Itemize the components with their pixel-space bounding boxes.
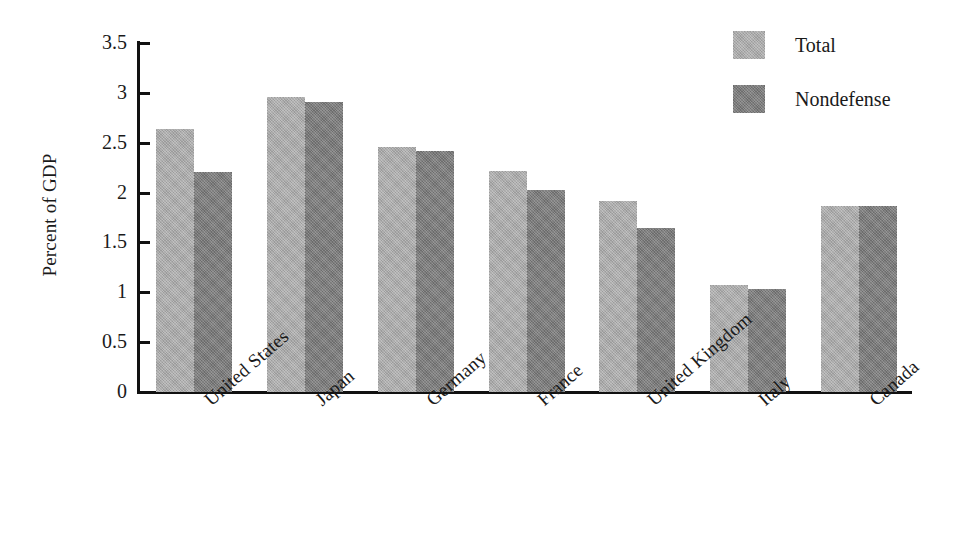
- x-axis-category-labels: United StatesJapanGermanyFranceUnited Ki…: [137, 394, 912, 544]
- bar-nondefense: [194, 172, 232, 392]
- y-axis-tick-label: 3: [55, 82, 127, 102]
- bar-chart-figure: Percent of GDP 3.532.521.510.50 United S…: [0, 0, 961, 550]
- y-axis-tick-label: 2.5: [55, 132, 127, 152]
- bar-total: [599, 201, 637, 392]
- bar-total: [156, 129, 194, 392]
- legend-swatch-icon: [733, 31, 765, 59]
- y-axis-tick-label: 3.5: [55, 32, 127, 52]
- x-axis-label-canada: Canada: [865, 394, 879, 411]
- y-axis-tick-label: 0.5: [55, 331, 127, 351]
- y-axis-tick-label: 1.5: [55, 231, 127, 251]
- bar-group: [156, 43, 232, 392]
- bar-group: [378, 43, 454, 392]
- bar-total: [489, 171, 527, 392]
- y-axis-tick-label-wrap: 2.5: [55, 132, 127, 152]
- x-axis-label-germany: Germany: [422, 394, 436, 411]
- y-axis-tick-label: 0: [55, 381, 127, 401]
- bar-nondefense: [637, 228, 675, 392]
- y-axis-tick-label-wrap: 0.5: [55, 331, 127, 351]
- bar-group: [599, 43, 675, 392]
- y-axis-tick-label-wrap: 2: [55, 182, 127, 202]
- x-axis-label-united-states: United States: [200, 394, 214, 411]
- chart-legend: TotalNondefense: [733, 31, 943, 113]
- x-axis-label-united-kingdom: United Kingdom: [643, 394, 657, 411]
- x-axis-label-italy: Italy: [754, 394, 768, 411]
- y-axis-tick-label: 2: [55, 182, 127, 202]
- x-axis-label-france: France: [533, 394, 547, 411]
- y-axis-tick-label: 1: [55, 281, 127, 301]
- bar-nondefense: [305, 102, 343, 392]
- bar-group: [489, 43, 565, 392]
- y-axis-tick-label-wrap: 3: [55, 82, 127, 102]
- y-axis-tick-label-wrap: 0: [55, 381, 127, 401]
- y-axis-tick-label-wrap: 3.5: [55, 32, 127, 52]
- x-axis-label-japan: Japan: [311, 394, 325, 411]
- bar-total: [378, 147, 416, 392]
- legend-item: Nondefense: [733, 85, 891, 113]
- y-axis-tick-label-wrap: 1.5: [55, 231, 127, 251]
- legend-label: Total: [795, 35, 836, 55]
- y-axis-tick-label-wrap: 1: [55, 281, 127, 301]
- legend-label: Nondefense: [795, 89, 891, 109]
- bar-total: [821, 206, 859, 392]
- bar-nondefense: [416, 151, 454, 392]
- legend-item: Total: [733, 31, 836, 59]
- bar-nondefense: [527, 190, 565, 392]
- legend-swatch-icon: [733, 85, 765, 113]
- bar-nondefense: [859, 206, 897, 392]
